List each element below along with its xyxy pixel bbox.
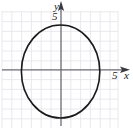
- x-axis-label: x: [124, 70, 129, 81]
- ellipse-plot: [0, 0, 133, 128]
- y-axis-tick-label-5: 5: [52, 11, 58, 22]
- coordinate-plane-figure: y 5 x 5: [0, 0, 133, 128]
- x-axis-tick-label-5: 5: [112, 70, 118, 81]
